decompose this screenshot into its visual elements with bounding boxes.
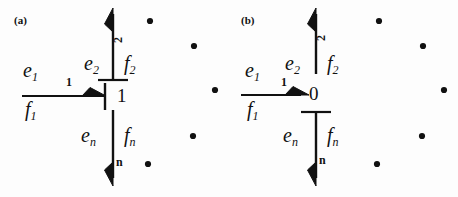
bond-n-number-a: n	[116, 156, 123, 168]
bond-1-effort-label-a: e1	[23, 60, 38, 83]
bond-n-flow-label-a: fn	[124, 125, 136, 148]
bond-2-effort-label-a: e2	[84, 53, 99, 76]
bond-2-number-b: 2	[315, 35, 327, 41]
panel-b-graphics	[229, 0, 458, 197]
bond-n-effort-label-a: en	[81, 125, 96, 148]
bond-2-effort-label-b: e2	[285, 53, 300, 76]
ellipsis-dot	[374, 161, 380, 167]
bond-2-flow-label-b: f2	[327, 53, 339, 76]
bond-1-flow-label-b: f1	[247, 99, 259, 122]
panel-a: (a)	[0, 0, 229, 197]
ellipsis-dot	[419, 133, 425, 139]
junction-symbol-a: 1	[117, 86, 127, 105]
bond-2-flow-label-a: f2	[124, 53, 136, 76]
bond-2-half-arrow	[105, 8, 114, 32]
bond-1-number-b: 1	[281, 76, 287, 88]
bond-n-half-arrow	[105, 162, 114, 186]
bond-1-flow-label-a: f1	[25, 99, 37, 122]
bond-2-number-a: 2	[112, 37, 124, 43]
ellipsis-dot	[145, 161, 151, 167]
bond-1-number-a: 1	[66, 76, 72, 88]
ellipsis-dot	[420, 43, 426, 49]
bond-1-half-arrow	[82, 88, 106, 97]
ellipsis-dot	[191, 43, 197, 49]
ellipsis-dot	[441, 87, 447, 93]
bond-1-effort-label-b: e1	[245, 60, 260, 83]
junction-symbol-b: 0	[309, 84, 319, 103]
ellipsis-dot	[190, 133, 196, 139]
ellipsis-dot	[147, 18, 153, 24]
bond-n-number-b: n	[319, 154, 326, 166]
panel-b: (b) 0	[229, 0, 458, 197]
bond-graph-figure: (a)	[0, 0, 458, 197]
bond-n-flow-label-b: fn	[327, 125, 339, 148]
bond-n-half-arrow	[308, 162, 317, 186]
ellipsis-dot	[376, 18, 382, 24]
ellipsis-dot	[212, 87, 218, 93]
bond-n-effort-label-b: en	[283, 125, 298, 148]
bond-1-half-arrow	[285, 87, 309, 96]
bond-2-half-arrow	[308, 8, 317, 32]
